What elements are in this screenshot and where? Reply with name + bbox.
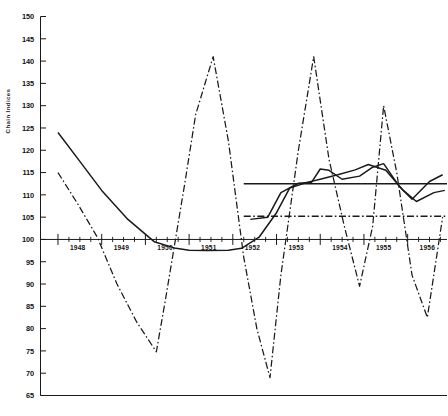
reference-lines-group <box>244 184 447 217</box>
series-c-dashdot <box>58 57 443 378</box>
axes-group <box>41 17 448 396</box>
series-a-solid <box>58 132 445 250</box>
chart-figure: Chain Indices 65707580859095100105110115… <box>0 0 448 416</box>
chart-plot-area <box>0 0 448 416</box>
data-series-group <box>58 57 445 378</box>
axis-ticks-group <box>41 17 441 396</box>
